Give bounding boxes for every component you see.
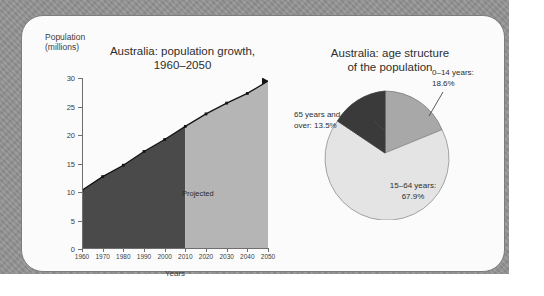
y-tick-15: [78, 164, 82, 165]
population-growth-chart-title: Australia: population growth, 1960–2050: [90, 44, 275, 72]
pie-callout-65-plus: 65 years and over: 13.5%: [294, 110, 340, 131]
x-tick-2000: [165, 248, 166, 252]
x-tick-1970: [103, 248, 104, 252]
y-axis-title: Population (millions): [45, 32, 85, 52]
pie-callout-15-64-line2: 67.9%: [368, 192, 458, 203]
x-axis-line: [82, 248, 268, 249]
y-tick-20: [78, 135, 82, 136]
pie-callout-0-14-line2: 18.6%: [432, 79, 474, 90]
x-tick-1990: [144, 248, 145, 252]
y-axis-title-line1: Population: [45, 32, 85, 42]
pie-callout-15-64: 15–64 years: 67.9%: [368, 181, 458, 202]
figure-panel: Population (millions) Australia: populat…: [21, 15, 505, 272]
chart-title-line1: Australia: population growth,: [90, 44, 275, 58]
y-tick-label-25: 25: [49, 103, 75, 112]
pie-callout-65-plus-line2: over: 13.5%: [294, 121, 340, 132]
x-axis-title: Years: [82, 269, 268, 278]
y-tick-10: [78, 192, 82, 193]
y-tick-label-15: 15: [49, 160, 75, 169]
y-tick-label-10: 10: [49, 188, 75, 197]
y-axis-title-line2: (millions): [45, 42, 85, 52]
population-plot-area: [82, 78, 268, 249]
actual-area-fill: [82, 126, 185, 249]
x-tick-2010: [185, 248, 186, 252]
x-tick-label-2050: 2050: [255, 253, 281, 260]
y-tick-30: [78, 78, 82, 79]
x-tick-2030: [227, 248, 228, 252]
pie-callout-15-64-line1: 15–64 years:: [368, 181, 458, 192]
y-tick-label-30: 30: [49, 74, 75, 83]
callout-line-0-14: [429, 92, 443, 116]
page-background-right-margin: [509, 0, 544, 274]
x-tick-2040: [247, 248, 248, 252]
population-growth-chart: Population (millions) Australia: populat…: [30, 26, 295, 266]
y-axis-line: [82, 78, 83, 249]
x-tick-1980: [123, 248, 124, 252]
pie-callout-0-14: 0–14 years: 18.6%: [432, 68, 474, 89]
x-tick-2020: [206, 248, 207, 252]
projected-annotation: Projected: [182, 189, 214, 198]
x-tick-1960: [82, 248, 83, 252]
chart-title-line2: 1960–2050: [90, 58, 275, 72]
y-tick-label-5: 5: [49, 217, 75, 226]
y-tick-25: [78, 107, 82, 108]
pie-callout-0-14-line1: 0–14 years:: [432, 68, 474, 79]
projected-area-fill: [185, 81, 268, 249]
callout-line-65-plus: [374, 121, 385, 131]
age-structure-chart: Australia: age structure of the populati…: [292, 26, 502, 266]
pie-callout-65-plus-line1: 65 years and: [294, 110, 340, 121]
x-tick-2050: [268, 248, 269, 252]
y-tick-label-20: 20: [49, 131, 75, 140]
pie-callout-lines: [292, 26, 502, 266]
y-tick-5: [78, 221, 82, 222]
